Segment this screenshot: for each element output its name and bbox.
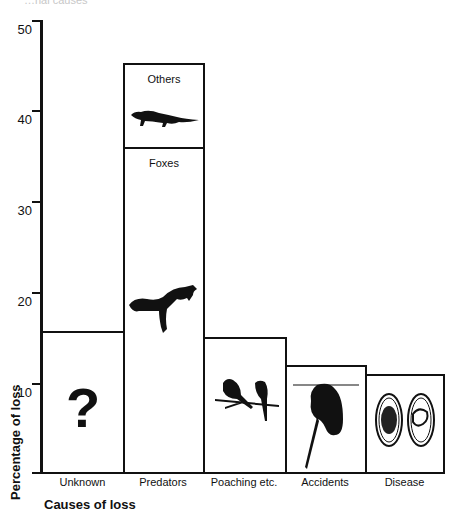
perched-parrots-icon <box>213 377 281 437</box>
segment-label-others: Others <box>125 73 203 85</box>
bar-disease <box>365 374 445 474</box>
x-axis-title: Causes of loss <box>44 497 136 512</box>
bar-accidents <box>285 365 367 474</box>
bar-predators: Others Foxes <box>123 63 205 474</box>
question-mark-icon: ? <box>43 375 123 440</box>
y-tick-20 <box>32 292 41 294</box>
category-label-unknown: Unknown <box>42 476 123 488</box>
segment-label-foxes: Foxes <box>125 157 203 169</box>
category-label-disease: Disease <box>365 476 444 488</box>
egg-cells-icon <box>373 392 439 448</box>
bar-unknown: ? <box>41 331 125 474</box>
bird-on-wire-icon <box>291 379 363 469</box>
category-label-accidents: Accidents <box>285 476 365 488</box>
category-label-predators: Predators <box>123 476 203 488</box>
mustelid-icon <box>129 105 201 129</box>
y-tick-30 <box>32 201 41 203</box>
cropped-caption: …nal causes <box>24 0 88 6</box>
y-tick-label-20: 20 <box>2 294 32 309</box>
y-tick-label-50: 50 <box>2 22 32 37</box>
y-tick-40 <box>32 110 41 112</box>
category-label-poaching: Poaching etc. <box>203 476 285 488</box>
bar-poaching <box>203 337 287 474</box>
y-tick-label-40: 40 <box>2 112 32 127</box>
fox-icon <box>127 281 201 337</box>
y-tick-50 <box>32 20 41 22</box>
y-axis-title: Percentage of loss <box>8 384 23 500</box>
y-tick-label-30: 30 <box>2 203 32 218</box>
y-tick-10 <box>32 383 41 385</box>
